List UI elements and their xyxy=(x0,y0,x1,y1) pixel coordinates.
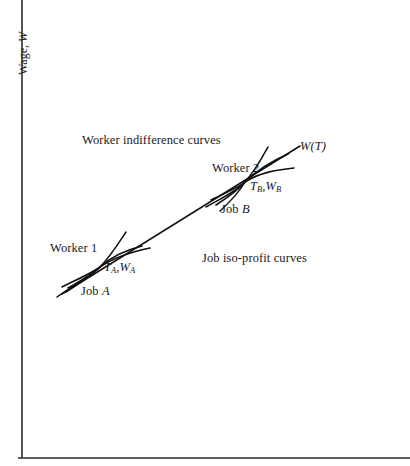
hedonic-wage-figure: Wage, W Worker indifference curves Worke… xyxy=(0,0,410,466)
label-wage-function: W(T) xyxy=(300,140,326,153)
label-worker-1: Worker 1 xyxy=(50,242,97,255)
wage-function-line xyxy=(62,146,300,294)
label-worker-2: Worker 2 xyxy=(212,162,259,175)
label-job-isoprofit-curves: Job iso-profit curves xyxy=(202,252,307,265)
label-job-a: Job A xyxy=(81,285,110,298)
label-worker-indifference-curves: Worker indifference curves xyxy=(82,134,221,147)
label-tangency-point-b: TB,WB xyxy=(250,180,281,193)
label-job-b: Job B xyxy=(221,203,250,216)
label-tangency-point-a: TA,WA xyxy=(104,261,135,274)
plot-canvas xyxy=(0,0,410,466)
